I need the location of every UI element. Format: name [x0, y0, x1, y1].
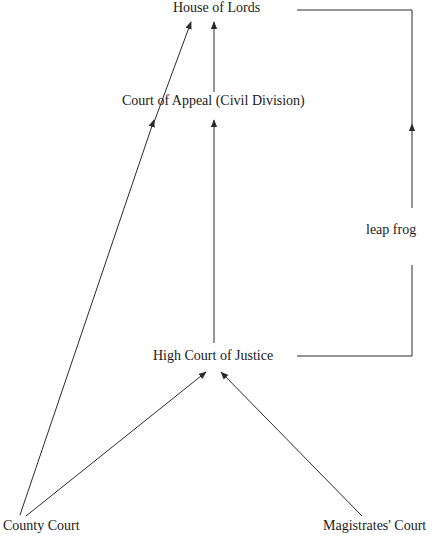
connectors — [0, 0, 442, 552]
node-high-court: High Court of Justice — [153, 348, 273, 364]
leap-frog-lower-line — [297, 265, 412, 356]
court-hierarchy-diagram: House of Lords Court of Appeal (Civil Di… — [0, 0, 442, 552]
arrow-county-to-appeal — [20, 120, 154, 515]
node-court-of-appeal: Court of Appeal (Civil Division) — [122, 93, 305, 109]
label-leap-frog: leap frog — [366, 222, 416, 238]
arrow-magistrates-to-high — [221, 372, 362, 516]
node-house-of-lords: House of Lords — [173, 0, 260, 16]
leap-frog-top-line — [297, 10, 412, 124]
arrow-county-to-high — [26, 372, 206, 516]
arrow-county-to-lords — [153, 22, 191, 125]
node-magistrates-court: Magistrates' Court — [323, 518, 426, 534]
node-county-court: County Court — [3, 518, 80, 534]
